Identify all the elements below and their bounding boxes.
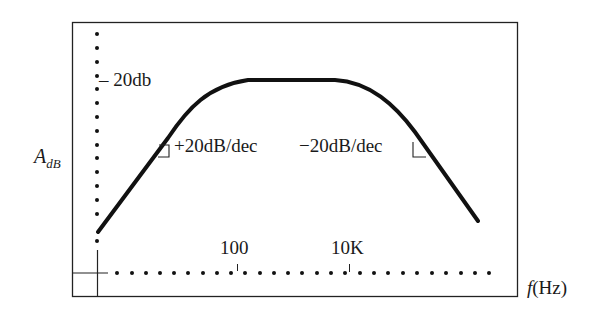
x-axis-dotted	[115, 271, 491, 275]
falling-slope-label: −20dB/dec	[299, 135, 383, 156]
rising-slope-label: +20dB/dec	[174, 135, 258, 156]
bode-plot-diagram: – 20db +20dB/dec −20dB/dec 100 10K AdB f…	[0, 0, 601, 326]
reference-level-label: – 20db	[98, 69, 151, 90]
y-axis-label: AdB	[32, 145, 61, 171]
tick-label-100: 100	[220, 237, 249, 258]
x-axis-label: f(Hz)	[527, 277, 567, 299]
plot-frame	[73, 23, 518, 297]
y-axis-dotted	[95, 32, 99, 243]
magnitude-curve	[98, 80, 478, 232]
origin-crosshair	[72, 250, 108, 297]
tick-label-10k: 10K	[331, 237, 364, 258]
